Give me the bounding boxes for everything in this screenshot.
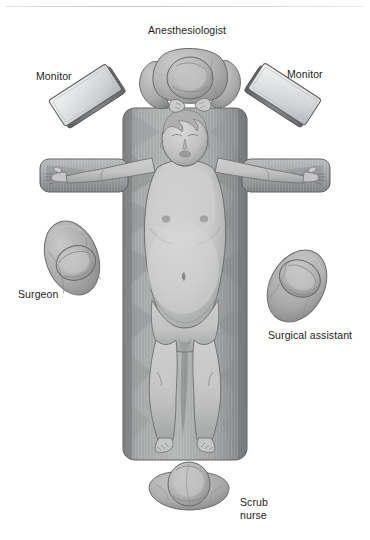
nipple-left	[162, 216, 170, 223]
label-scrub-nurse: Scrub nurse	[240, 496, 268, 521]
label-surgical-assistant: Surgical assistant	[268, 329, 352, 342]
label-anesthesiologist: Anesthesiologist	[148, 24, 226, 37]
label-monitor-right: Monitor	[287, 68, 323, 81]
label-monitor-left: Monitor	[36, 70, 72, 83]
scrub-nurse-figure	[149, 462, 229, 510]
patient-mouth	[180, 151, 191, 157]
figure-caption	[0, 530, 370, 540]
patient-left-foot	[155, 438, 173, 452]
operating-room-diagram: Anesthesiologist Monitor Monitor Surgeon…	[0, 0, 370, 540]
surgical-assistant-figure	[255, 240, 338, 332]
anesthesiologist-figure	[140, 48, 241, 112]
nipple-right	[200, 216, 208, 223]
patient-right-foot	[197, 438, 215, 452]
label-surgeon: Surgeon	[18, 288, 58, 301]
